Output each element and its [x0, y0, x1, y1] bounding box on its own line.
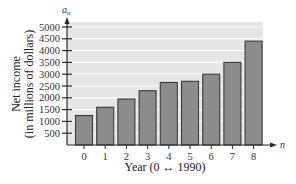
y-tick-label: 2000 — [39, 92, 60, 103]
bar-1 — [97, 107, 114, 145]
bar-3 — [139, 91, 156, 145]
x-axis-title: Year (0 ↔ 1990) — [124, 160, 205, 174]
y-tick-label: 3500 — [39, 57, 60, 68]
y-tick-label: 3000 — [39, 69, 60, 80]
x-tick-label: 0 — [81, 151, 86, 162]
bar-5 — [182, 81, 199, 145]
y-tick-label: 5000 — [39, 22, 60, 33]
x-axis-variable: n — [280, 139, 285, 150]
y-tick-label: 4500 — [39, 33, 60, 44]
y-axis-arrow-icon — [65, 17, 70, 24]
y-tick-label: 1000 — [39, 116, 60, 127]
bar-chart: 500100015002000250030003500400045005000 … — [0, 0, 296, 184]
bar-8 — [245, 41, 262, 145]
bar-6 — [203, 74, 220, 145]
bar-2 — [118, 99, 135, 145]
x-tick-label: 6 — [209, 151, 214, 162]
x-axis-arrow-icon — [270, 143, 277, 148]
y-axis-variable: an — [62, 4, 71, 17]
x-tick-label: 1 — [103, 151, 108, 162]
y-axis-title-line2: (in millions of dollars) — [22, 30, 36, 138]
y-tick-label: 2500 — [39, 81, 60, 92]
y-tick-label: 500 — [44, 128, 60, 139]
y-tick-label: 4000 — [39, 45, 60, 56]
bar-0 — [76, 116, 93, 146]
x-tick-label: 8 — [251, 151, 256, 162]
y-tick-label: 1500 — [39, 104, 60, 115]
y-axis-title-line1: Net income — [9, 56, 23, 112]
x-tick-label: 7 — [230, 151, 235, 162]
bar-7 — [224, 62, 241, 145]
bar-4 — [160, 82, 177, 145]
